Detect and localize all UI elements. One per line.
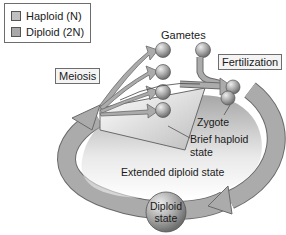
diploid-swatch xyxy=(11,27,21,37)
gametes-label: Gametes xyxy=(161,29,206,41)
fertilization-label: Fertilization xyxy=(218,54,282,70)
legend-item-diploid: Diploid (2N) xyxy=(11,26,84,38)
legend-label-diploid: Diploid (2N) xyxy=(26,26,84,38)
legend-item-haploid: Haploid (N) xyxy=(11,10,82,22)
legend-label-haploid: Haploid (N) xyxy=(26,10,82,22)
brief-haploid-line2: state xyxy=(190,146,213,158)
brief-haploid-line1: Brief haploid xyxy=(190,133,248,145)
extended-diploid-label: Extended diploid state xyxy=(121,166,224,178)
meiosis-label: Meiosis xyxy=(55,68,100,84)
zygote-label: Zygote xyxy=(197,116,229,128)
haploid-swatch xyxy=(11,11,21,21)
diploid-state-line2: state xyxy=(155,212,178,224)
brief-haploid-label: Brief haploid state xyxy=(190,133,248,159)
diploid-state-line1: Diploid xyxy=(150,200,182,212)
legend: Haploid (N) Diploid (2N) xyxy=(4,3,91,43)
diploid-state-label: Diploid state xyxy=(146,200,186,224)
